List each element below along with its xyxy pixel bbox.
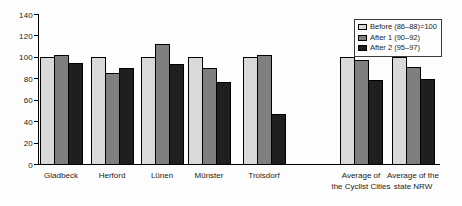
y-tick-label: 0 xyxy=(9,160,33,169)
y-tick-label: 80 xyxy=(9,74,33,83)
bar xyxy=(40,57,55,165)
bar xyxy=(188,57,203,165)
y-tick xyxy=(34,35,38,36)
y-tick xyxy=(34,100,38,101)
bar xyxy=(271,114,286,165)
legend-entry: Before (86–88)=100 xyxy=(358,23,437,32)
y-tick-label: 100 xyxy=(9,53,33,62)
y-tick xyxy=(34,121,38,122)
y-tick xyxy=(34,143,38,144)
legend-label: Before (86–88)=100 xyxy=(370,23,437,32)
bar xyxy=(54,55,69,165)
bar xyxy=(406,67,421,166)
category-label: Average of the state NRW xyxy=(367,171,459,192)
y-tick-label: 140 xyxy=(9,10,33,19)
y-tick xyxy=(34,57,38,58)
bar xyxy=(420,79,435,165)
bar xyxy=(354,60,369,165)
bar xyxy=(155,44,170,165)
bar xyxy=(243,57,258,165)
bar xyxy=(119,68,134,165)
bar xyxy=(392,57,407,165)
bar xyxy=(202,68,217,165)
legend-entry: After 2 (95–97) xyxy=(358,44,437,53)
y-tick-label: 20 xyxy=(9,139,33,148)
legend-entry: After 1 (90–92) xyxy=(358,34,437,43)
category-label: Troisdorf xyxy=(218,171,310,182)
bar xyxy=(257,55,272,165)
bar xyxy=(368,80,383,165)
legend-label: After 2 (95–97) xyxy=(370,44,420,53)
y-tick-label: 120 xyxy=(9,31,33,40)
bar xyxy=(340,57,355,165)
legend-label: After 1 (90–92) xyxy=(370,34,420,43)
legend-swatch-icon xyxy=(358,24,367,30)
bar xyxy=(141,57,156,165)
legend: Before (86–88)=100After 1 (90–92)After 2… xyxy=(354,19,442,57)
legend-swatch-icon xyxy=(358,45,367,51)
y-tick xyxy=(34,164,38,165)
bar xyxy=(91,57,106,165)
bar xyxy=(105,73,120,165)
legend-swatch-icon xyxy=(358,35,367,41)
y-tick-label: 40 xyxy=(9,117,33,126)
bar xyxy=(216,82,231,166)
bar xyxy=(169,64,184,165)
y-tick xyxy=(34,78,38,79)
bar xyxy=(68,63,83,165)
y-tick xyxy=(34,14,38,15)
bar-chart: 020406080100120140GladbeckHerfordLünenMü… xyxy=(0,0,462,206)
y-tick-label: 60 xyxy=(9,96,33,105)
